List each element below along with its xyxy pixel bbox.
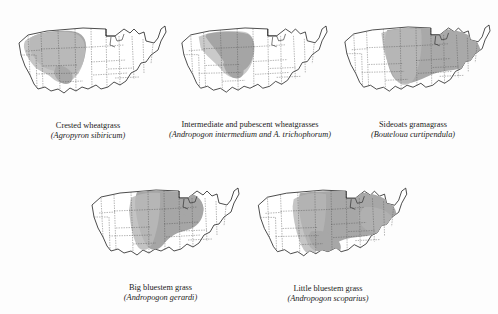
caption-common-name: Big bluestem grass bbox=[78, 283, 243, 293]
map-caption-little-bluestem-grass: Little bluestem grass (Andropogon scopar… bbox=[244, 284, 412, 304]
map-cell-big-bluestem-grass: Big bluestem grass (Andropogon gerardi) bbox=[78, 176, 243, 303]
us-map-intermediate-pubescent-wheatgrasses bbox=[171, 14, 329, 118]
figure-sheet: GRASSES OF THE UNITED STATES bbox=[0, 0, 498, 314]
clipped-running-header: GRASSES OF THE UNITED STATES bbox=[90, 0, 240, 3]
caption-latin-name: (Bouteloua curtipendula) bbox=[332, 130, 494, 140]
caption-common-name: Intermediate and pubescent wheatgrasses bbox=[147, 120, 353, 130]
caption-latin-name: (Agropyron sibiricum) bbox=[8, 131, 168, 141]
map-caption-big-bluestem-grass: Big bluestem grass (Andropogon gerardi) bbox=[78, 283, 243, 303]
map-caption-intermediate-pubescent-wheatgrasses: Intermediate and pubescent wheatgrasses … bbox=[147, 120, 353, 140]
caption-latin-name: (Andropogon gerardi) bbox=[78, 293, 243, 303]
us-map-sideoats-gramagrass bbox=[334, 12, 492, 118]
map-caption-sideoats-gramagrass: Sideoats gramagrass (Bouteloua curtipend… bbox=[332, 120, 494, 140]
caption-common-name: Little bluestem grass bbox=[244, 284, 412, 294]
us-map-big-bluestem-grass bbox=[81, 176, 241, 281]
map-cell-crested-wheatgrass: Crested wheatgrass (Agropyron sibiricum) bbox=[8, 14, 168, 141]
caption-latin-name: (Andropogon scoparius) bbox=[244, 294, 412, 304]
us-map-little-bluestem-grass bbox=[247, 176, 409, 282]
map-cell-sideoats-gramagrass: Sideoats gramagrass (Bouteloua curtipend… bbox=[332, 12, 494, 140]
caption-common-name: Sideoats gramagrass bbox=[332, 120, 494, 130]
map-cell-little-bluestem-grass: Little bluestem grass (Andropogon scopar… bbox=[244, 176, 412, 304]
us-map-crested-wheatgrass bbox=[8, 14, 168, 119]
caption-common-name: Crested wheatgrass bbox=[8, 121, 168, 131]
map-caption-crested-wheatgrass: Crested wheatgrass (Agropyron sibiricum) bbox=[8, 121, 168, 141]
caption-latin-name: (Andropogon intermedium and A. trichopho… bbox=[147, 130, 353, 140]
map-cell-intermediate-pubescent-wheatgrasses: Intermediate and pubescent wheatgrasses … bbox=[147, 14, 353, 140]
